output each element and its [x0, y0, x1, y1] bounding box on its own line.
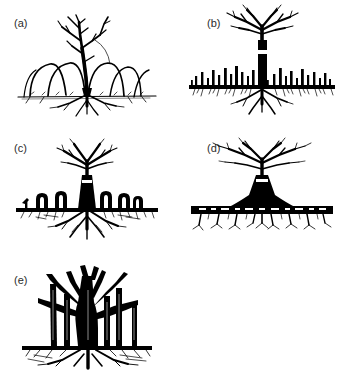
root-collar-a — [82, 88, 92, 96]
crown-c — [57, 139, 117, 177]
buttressed-trunk-d — [229, 175, 295, 207]
figure-panel-grid: (a) — [0, 0, 349, 372]
panel-e-illustration — [0, 250, 174, 372]
panel-a-illustration — [0, 0, 174, 124]
panel-a: (a) — [0, 0, 174, 124]
panel-c-illustration — [0, 125, 174, 249]
crown-b — [227, 5, 298, 44]
trunk-c — [78, 175, 96, 209]
descending-rootlets-d — [193, 214, 331, 230]
panel-b-illustration — [175, 0, 349, 124]
root-system-c — [48, 209, 126, 239]
panel-c: (c) — [0, 125, 174, 249]
plate-root-d — [191, 206, 333, 214]
panel-e: (e) — [0, 250, 174, 372]
panel-b: (b) — [175, 0, 349, 124]
tree-a — [58, 15, 110, 92]
panel-d: (d) — [175, 125, 349, 249]
crown-d — [213, 138, 311, 177]
surface-roots-e — [26, 348, 150, 368]
trunk-b — [258, 40, 267, 86]
panel-d-illustration — [175, 125, 349, 249]
